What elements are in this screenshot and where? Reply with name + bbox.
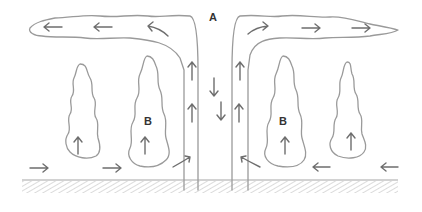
ground bbox=[22, 180, 398, 193]
arrow-up-icon bbox=[281, 137, 289, 154]
arrow-curved-right-icon bbox=[248, 22, 268, 34]
arrow-right-icon bbox=[30, 164, 48, 172]
arrow-up-icon bbox=[347, 133, 355, 150]
anvil-and-column bbox=[30, 15, 398, 190]
arrow-down-icon bbox=[210, 78, 218, 96]
label-a: A bbox=[209, 11, 217, 23]
arrow-right-icon bbox=[103, 164, 121, 172]
arrow-up-icon bbox=[188, 104, 196, 122]
arrow-up-icon bbox=[188, 62, 196, 80]
upper-left-outflow-arrows bbox=[44, 22, 168, 36]
surface-left-inflow-arrows bbox=[30, 156, 190, 172]
left-anvil-outline bbox=[30, 15, 198, 190]
arrow-curved-up-left-icon bbox=[241, 156, 260, 167]
label-b-left: B bbox=[144, 115, 152, 127]
arrow-left-icon bbox=[44, 23, 62, 31]
ground-hatching bbox=[22, 181, 398, 193]
cloud-tower-far-right bbox=[330, 62, 366, 158]
cloud-tower-left-b bbox=[129, 56, 169, 167]
label-b-right: B bbox=[279, 115, 287, 127]
arrow-up-icon bbox=[236, 62, 244, 80]
upper-right-outflow-arrows bbox=[248, 22, 370, 34]
arrow-left-icon bbox=[94, 23, 112, 31]
arrow-up-icon bbox=[235, 104, 243, 122]
cloud-updraft-arrows bbox=[74, 133, 355, 154]
arrow-left-icon bbox=[313, 163, 330, 171]
circulation-diagram: A B B bbox=[0, 0, 422, 212]
arrow-right-icon bbox=[352, 24, 370, 32]
arrow-down-icon bbox=[217, 102, 225, 120]
arrow-curved-left-icon bbox=[148, 22, 168, 36]
arrow-left-icon bbox=[381, 163, 398, 171]
arrow-right-icon bbox=[302, 24, 320, 32]
column-arrows bbox=[188, 62, 244, 122]
arrow-up-icon bbox=[141, 137, 149, 154]
surface-right-inflow-arrows bbox=[241, 156, 398, 171]
cloud-towers bbox=[66, 56, 366, 167]
arrow-curved-up-right-icon bbox=[173, 156, 190, 167]
right-anvil-outline bbox=[232, 15, 398, 190]
cloud-tower-far-left bbox=[66, 64, 100, 158]
arrow-up-icon bbox=[74, 137, 82, 154]
